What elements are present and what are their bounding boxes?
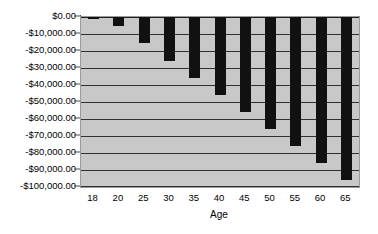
y-axis-tick-labels: $0.00-$10,000.00-$20,000.00-$30,000.00-$…: [0, 16, 78, 186]
y-axis-tick-mark: [74, 84, 80, 85]
bar: [113, 17, 124, 26]
x-axis-tick-label: 50: [264, 191, 275, 205]
y-axis-tick-label: -$20,000.00: [25, 45, 76, 55]
y-axis-tick-mark: [74, 33, 80, 34]
y-axis-tick-mark: [74, 50, 80, 51]
x-axis-tick-label: 45: [239, 191, 250, 205]
y-axis-tick-mark: [74, 169, 80, 170]
x-axis-title: Age: [80, 208, 358, 221]
y-axis-tick-label: -$50,000.00: [25, 96, 76, 106]
y-axis-tick-label: -$100,000.00: [20, 181, 76, 191]
x-axis-tick-label: 55: [290, 191, 301, 205]
y-axis-tick-mark: [74, 152, 80, 153]
x-axis-tick-label: 40: [214, 191, 225, 205]
y-axis-tick-label: -$40,000.00: [25, 79, 76, 89]
x-axis-tick-label: 18: [87, 191, 98, 205]
y-axis-tick-label: -$80,000.00: [25, 147, 76, 157]
x-axis-tick-label: 20: [113, 191, 124, 205]
x-axis-tick-label: 25: [138, 191, 149, 205]
bar: [290, 17, 301, 146]
y-axis-tick-label: -$90,000.00: [25, 164, 76, 174]
y-axis-tick-label: -$70,000.00: [25, 130, 76, 140]
bar: [265, 17, 276, 129]
bar: [316, 17, 327, 163]
x-axis-tick-labels: 1820253035404550556065: [80, 191, 358, 207]
y-axis-tick-label: $0.00: [52, 11, 76, 21]
bar: [215, 17, 226, 95]
x-axis-tick-label: 30: [163, 191, 174, 205]
y-axis-tick-mark: [74, 101, 80, 102]
y-axis-tick-mark: [74, 135, 80, 136]
y-axis-tick-mark: [74, 186, 80, 187]
bars-layer: [81, 17, 359, 187]
bar-chart-figure: $0.00-$10,000.00-$20,000.00-$30,000.00-$…: [0, 0, 378, 234]
x-axis-tick-label: 65: [340, 191, 351, 205]
bar: [164, 17, 175, 61]
bar: [139, 17, 150, 43]
bar: [341, 17, 352, 180]
y-axis-tick-label: -$30,000.00: [25, 62, 76, 72]
bar: [88, 17, 99, 19]
y-axis-tick-mark: [74, 16, 80, 17]
y-axis-tick-mark: [74, 67, 80, 68]
y-axis-tick-label: -$10,000.00: [25, 28, 76, 38]
y-axis-tick-mark: [74, 118, 80, 119]
y-axis-tick-label: -$60,000.00: [25, 113, 76, 123]
x-axis-tick-label: 60: [315, 191, 326, 205]
plot-area: [80, 16, 360, 188]
x-axis-tick-label: 35: [188, 191, 199, 205]
bar: [240, 17, 251, 112]
bar: [189, 17, 200, 78]
